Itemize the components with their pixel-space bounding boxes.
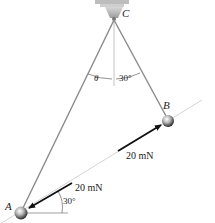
angle-label-30-c: 30° xyxy=(119,74,132,83)
diagram-graphics xyxy=(0,0,215,223)
diagram-canvas: C B A θ 30° 30° 20 mN 20 mN xyxy=(0,0,215,223)
angle-label-theta: θ xyxy=(94,74,98,83)
theta-arc xyxy=(88,74,112,79)
point-label-a: A xyxy=(5,201,12,212)
sphere-b xyxy=(162,115,174,127)
point-label-b: B xyxy=(163,100,170,111)
angle-30-arc-a xyxy=(58,191,63,213)
point-label-c: C xyxy=(122,8,129,19)
force-arrow-b xyxy=(118,125,161,151)
force-label-a: 20 mN xyxy=(75,183,103,193)
sphere-a xyxy=(15,207,28,220)
force-label-b: 20 mN xyxy=(126,151,154,161)
cord-cb xyxy=(114,20,166,116)
angle-label-30-a: 30° xyxy=(63,197,76,206)
